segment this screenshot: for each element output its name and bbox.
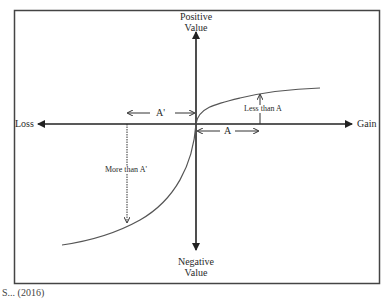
figure-caption: S... (2016) [2,287,44,298]
loss-label: Loss [15,119,34,129]
negative-value-line2: Value [174,268,218,278]
negative-value-line1: Negative [174,257,218,267]
value-curve-losses [62,124,196,245]
negative-value-label: Negative Value [174,257,218,278]
figure-border [15,11,380,284]
less-than-a-label: Less than A [243,105,283,113]
a-prime-label: A' [156,108,165,118]
positive-value-line1: Positive [176,12,216,22]
positive-value-label: Positive Value [176,12,216,33]
positive-value-line2: Value [176,23,216,33]
a-label: A [224,126,231,136]
gain-label: Gain [357,119,376,129]
more-than-a-prime-label: More than A' [104,166,148,174]
